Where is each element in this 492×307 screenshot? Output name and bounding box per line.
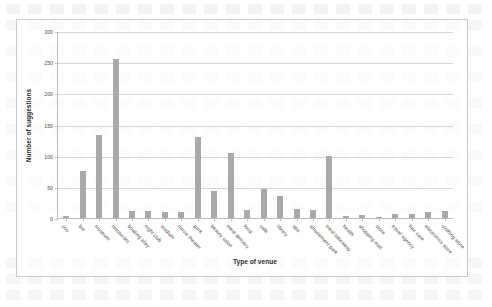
bar-slot [404,32,420,218]
x-axis-tick-label: store [374,223,386,236]
bar-slot [58,32,74,218]
bar [294,209,300,218]
bar-slot [140,32,156,218]
bar-slot [354,32,370,218]
bar-slot [223,32,239,218]
bar-slot [371,32,387,218]
bar-slot [91,32,107,218]
bar-slot [321,32,337,218]
bar-slot [157,32,173,218]
x-axis-tick-mark [231,218,232,221]
x-axis-tick-mark [362,218,363,221]
y-axis-tick-label: 100 [44,154,53,160]
y-axis-tick-label: 200 [44,91,53,97]
bar-slot [239,32,255,218]
x-axis-tick-mark [181,218,182,221]
y-axis-tick-label: 50 [47,185,53,191]
bar-slot [272,32,288,218]
bar [261,189,267,218]
x-axis-tick-mark [148,218,149,221]
bar-slot [436,32,452,218]
y-axis-tick-label: 300 [44,29,53,35]
x-axis-tick-mark [247,218,248,221]
chart-figure: Number of suggestions 050100150200250300… [16,19,468,277]
y-axis-title: Number of suggestions [23,32,35,219]
bar [145,211,151,218]
bar-slot [74,32,90,218]
bar [129,211,135,218]
bar-slot [387,32,403,218]
plot-wrapper: 050100150200250300 [57,32,453,219]
x-axis-tick-mark [346,218,347,221]
bar-slot [190,32,206,218]
y-axis-title-text: Number of suggestions [26,89,33,162]
bar [195,137,201,218]
bar [113,59,119,218]
x-axis-tick-label: bar [77,223,87,233]
x-axis-tick-mark [428,218,429,221]
bar-slot [173,32,189,218]
bar-slot [255,32,271,218]
x-axis-tick-mark [329,218,330,221]
bar-slot [206,32,222,218]
y-axis-tick-mark [55,219,58,220]
bar [442,211,448,218]
bar [228,153,234,218]
bar [310,210,316,218]
bar-slot [124,32,140,218]
x-axis-tick-mark [116,218,117,221]
x-axis-tick-mark [198,218,199,221]
bar [211,191,217,218]
y-axis-tick-label: 150 [44,123,53,129]
bar [96,135,102,218]
x-axis-tick-mark [412,218,413,221]
x-axis-tick-mark [214,218,215,221]
x-axis-tick-mark [297,218,298,221]
x-axis-tick-label: park [193,223,204,234]
x-axis-tick-label: spa [292,223,302,233]
bar [244,210,250,218]
x-axis-tick-mark [165,218,166,221]
bar-slot [288,32,304,218]
x-axis-tick-mark [280,218,281,221]
bar [80,171,86,218]
x-axis-tick-mark [66,218,67,221]
x-axis-tick-mark [379,218,380,221]
y-axis-tick-label: 250 [44,60,53,66]
x-axis-tick-mark [99,218,100,221]
x-axis-tick-mark [445,218,446,221]
bar-slot [107,32,123,218]
y-axis-tick-label: 0 [50,216,53,222]
x-axis-tick-label: zoo [61,223,71,233]
bar [277,196,283,218]
x-axis-tick-mark [395,218,396,221]
x-axis-tick-mark [264,218,265,221]
x-axis-tick-mark [83,218,84,221]
bar-series [58,32,453,218]
bar [326,156,332,218]
bar-slot [305,32,321,218]
x-axis-tick-label: cafe [259,223,270,234]
plot-area: 050100150200250300 [57,32,453,219]
x-axis-tick-label: clothing store [440,223,466,250]
x-axis-tick-label: food [242,223,253,234]
x-axis-title: Type of venue [57,258,453,265]
x-axis-tick-mark [132,218,133,221]
bar-slot [338,32,354,218]
x-axis-tick-mark [313,218,314,221]
bar-slot [420,32,436,218]
